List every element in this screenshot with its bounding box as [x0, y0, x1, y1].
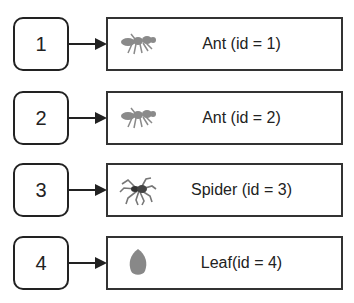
leaf-icon	[116, 245, 160, 281]
entity-box-1: Ant (id = 1)	[106, 17, 343, 71]
arrow-icon	[69, 117, 106, 119]
entity-box-2: Ant (id = 2)	[106, 91, 343, 145]
entity-label: Ant (id = 1)	[160, 35, 341, 53]
mapping-row-3: 3 Spider (id = 3)	[0, 163, 354, 221]
ant-icon	[116, 26, 160, 62]
arrow-icon	[69, 43, 106, 45]
arrow-icon	[69, 262, 106, 264]
mapping-row-1: 1 Ant (id = 1)	[0, 17, 354, 75]
index-box-3: 3	[13, 163, 69, 217]
entity-box-4: Leaf(id = 4)	[106, 236, 343, 290]
entity-box-3: Spider (id = 3)	[106, 163, 343, 217]
arrow-icon	[69, 189, 106, 191]
index-box-1: 1	[13, 17, 69, 71]
index-box-4: 4	[13, 236, 69, 290]
mapping-row-4: 4 Leaf(id = 4)	[0, 236, 354, 294]
ant-icon	[116, 100, 160, 136]
entity-label: Spider (id = 3)	[160, 181, 341, 199]
index-box-2: 2	[13, 91, 69, 145]
spider-icon	[116, 172, 160, 208]
mapping-row-2: 2 Ant (id = 2)	[0, 91, 354, 149]
entity-label: Ant (id = 2)	[160, 109, 341, 127]
entity-label: Leaf(id = 4)	[160, 254, 341, 272]
